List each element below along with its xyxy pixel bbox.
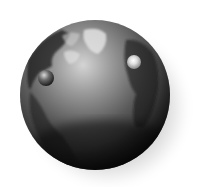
globe-icon xyxy=(0,0,198,187)
globe-rim xyxy=(20,20,170,170)
globe-illustration xyxy=(0,0,198,187)
left-sphere-marker xyxy=(38,70,54,86)
right-sphere-marker xyxy=(127,55,141,69)
